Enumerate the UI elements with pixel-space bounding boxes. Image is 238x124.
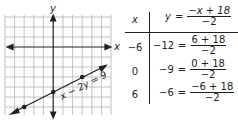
row-3-eq: =: [178, 87, 186, 98]
point-neg6: [23, 105, 26, 108]
row-1-denominator: −2: [191, 46, 227, 56]
point-0: [52, 90, 55, 93]
row-2-y: −9: [159, 64, 174, 75]
header-y: y: [165, 11, 171, 22]
values-table: x y = −x + 18 −2 −6 −12 = 6 + 18 −2 0 −9…: [125, 4, 238, 108]
row-1-y: −12: [153, 40, 174, 51]
y-axis-label: y: [49, 3, 57, 14]
row-3-x: 6: [125, 89, 145, 100]
coordinate-graph: x y x − 2y = 9: [0, 0, 120, 124]
row-2-fraction: 0 + 18 −2: [190, 59, 226, 80]
row-2-x: 0: [125, 66, 145, 77]
row-3-fraction: −6 + 18 −2: [190, 82, 234, 103]
row-1-eq: =: [178, 40, 186, 51]
row-2-denominator: −2: [190, 70, 226, 80]
header-denominator: −2: [187, 17, 231, 27]
header-y-formula: y = −x + 18 −2: [153, 6, 231, 27]
table-row: −9 = 0 + 18 −2: [159, 59, 226, 80]
table-row: −12 = 6 + 18 −2: [153, 35, 226, 56]
row-1-x: −6: [125, 42, 145, 53]
table-row: −6 = −6 + 18 −2: [159, 82, 234, 103]
header-eq: =: [175, 11, 183, 22]
header-fraction: −x + 18 −2: [187, 6, 231, 27]
row-1-fraction: 6 + 18 −2: [191, 35, 227, 56]
row-3-y: −6: [159, 87, 174, 98]
row-2-eq: =: [178, 64, 186, 75]
x-axis: [7, 45, 111, 50]
table-vertical-divider: [149, 12, 150, 104]
header-x: x: [125, 14, 145, 25]
y-axis: [51, 15, 56, 118]
x-axis-label: x: [113, 41, 120, 52]
row-3-denominator: −2: [190, 93, 234, 103]
grid: [5, 15, 111, 115]
